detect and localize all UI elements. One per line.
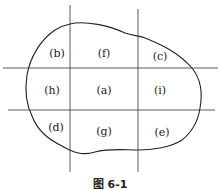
region-label-h: (h) xyxy=(44,84,60,97)
region-label-f: (f) xyxy=(98,47,111,60)
region-label-g: (g) xyxy=(96,125,112,138)
figure-6-1: (b) (f) (c) (h) (a) (i) (d) (g) (e) 图 6-… xyxy=(0,0,221,190)
region-label-c: (c) xyxy=(153,50,168,63)
region-label-e: (e) xyxy=(154,126,169,139)
region-label-a: (a) xyxy=(96,84,111,97)
figure-caption: 图 6-1 xyxy=(93,175,128,190)
region-label-b: (b) xyxy=(49,47,65,60)
region-label-i: (i) xyxy=(154,84,166,97)
region-label-d: (d) xyxy=(48,121,64,134)
